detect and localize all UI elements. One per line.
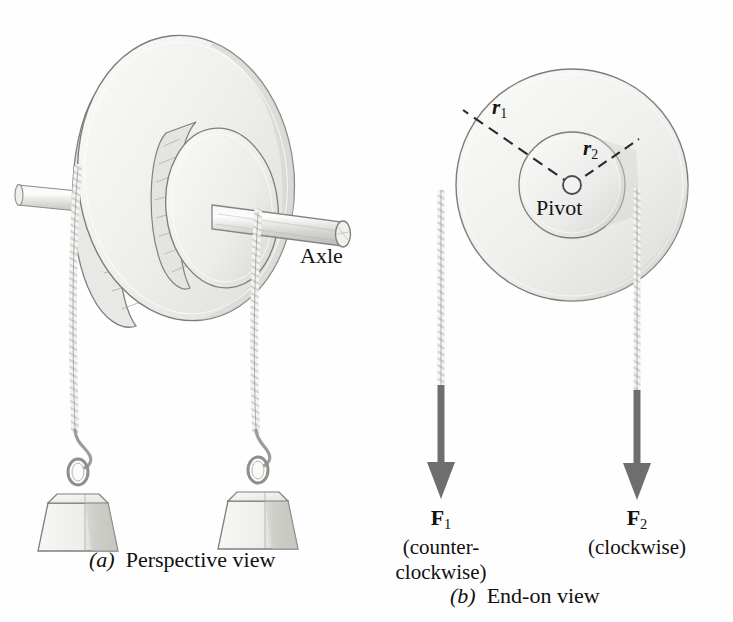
radius-r2-label: r2 — [583, 137, 598, 162]
force-2-sense: (clockwise) — [577, 535, 697, 560]
caption-panel-a: (a) Perspective view — [89, 547, 275, 573]
radius-r1-label: r1 — [492, 96, 507, 121]
caption-a-text: Perspective view — [126, 547, 276, 572]
radius-r1-subscript: 1 — [500, 106, 507, 121]
caption-a-marker: (a) — [89, 547, 115, 572]
hanging-weight-left — [38, 459, 118, 551]
force-1-sense: (counter- clockwise) — [381, 535, 501, 585]
force-2-label: F2(clockwise) — [577, 505, 697, 560]
axle-label: Axle — [300, 244, 343, 269]
force-2-subscript: 2 — [640, 516, 647, 532]
force-1-label: F1(counter- clockwise) — [381, 505, 501, 585]
radius-r2-symbol: r — [583, 136, 591, 160]
panel-a-perspective — [15, 24, 351, 551]
force-1-symbol: F — [431, 505, 444, 530]
force-1-subscript: 1 — [444, 516, 451, 532]
physics-figure: Axle Pivot r1 r2 F1(counter- clockwise) … — [0, 0, 733, 622]
panel-b-endon — [427, 69, 700, 500]
hanging-weight-right — [218, 457, 298, 549]
caption-b-marker: (b) — [450, 583, 476, 608]
force-2-symbol: F — [627, 505, 640, 530]
caption-panel-b: (b) End-on view — [450, 583, 600, 609]
radius-r1-symbol: r — [492, 95, 500, 119]
radius-r2-subscript: 2 — [591, 147, 598, 162]
force-vector-1 — [427, 190, 455, 499]
pivot-label: Pivot — [536, 196, 582, 221]
pivot-marker — [563, 176, 581, 194]
caption-b-text: End-on view — [487, 583, 600, 608]
